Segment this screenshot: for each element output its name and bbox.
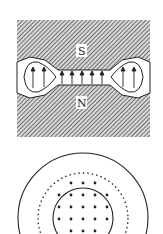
dot-grid — [58, 182, 109, 233]
cross-section — [18, 153, 148, 234]
outer-circle — [18, 153, 148, 234]
pole-label-n: N — [77, 97, 87, 110]
pole-label-s: S — [78, 45, 86, 58]
magnet-diagram: S N — [0, 0, 163, 234]
magnet-body: S N — [17, 20, 150, 137]
